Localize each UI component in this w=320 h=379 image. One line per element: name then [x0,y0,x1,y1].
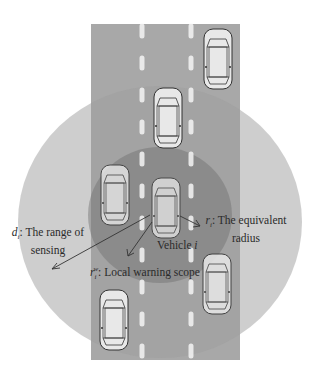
vehicle-i-label: Vehicle i [157,239,198,252]
vehicle-upper-middle [154,88,182,148]
vehicle-left [101,165,129,225]
vehicle-top-right [204,29,232,89]
sensing-range-label: di: The range of sensing [8,226,88,257]
traffic-diagram [0,0,320,379]
vehicle-lower-right [203,254,231,314]
local-warning-label: riw: Local warning scope [90,263,200,284]
vehicle-bottom-left [100,290,128,350]
equivalent-radius-label: ri: The equivalent radius [204,214,288,245]
vehicle-i [152,178,180,238]
